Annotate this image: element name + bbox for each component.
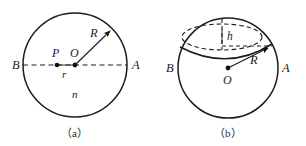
label-point-b-a: B xyxy=(12,58,20,72)
label-point-a-a: A xyxy=(131,58,140,72)
point-o-dot-a xyxy=(73,63,78,68)
point-p-dot-a xyxy=(55,63,60,68)
label-radius-R-b: R xyxy=(249,53,258,67)
label-point-p-a: P xyxy=(51,46,60,60)
label-radius-R-a: R xyxy=(89,26,98,40)
label-cap-height-h-b: h xyxy=(227,30,233,42)
label-point-o-b: O xyxy=(223,73,232,87)
geometry-figure-panel: B A P O R r n （a） B xyxy=(0,0,306,146)
caption-a: （a） xyxy=(61,127,88,139)
label-point-o-a: O xyxy=(70,46,79,60)
caption-b: （b） xyxy=(214,127,242,139)
figure-a-diagram: B A P O R r n （a） xyxy=(0,0,153,146)
label-radius-r-a: r xyxy=(62,68,67,80)
label-point-b-b: B xyxy=(166,61,174,75)
point-o-dot-b xyxy=(226,66,231,71)
label-point-a-b: A xyxy=(281,61,290,75)
label-index-n-a: n xyxy=(72,88,78,100)
figure-b-diagram: B A O R h （b） xyxy=(153,0,306,146)
